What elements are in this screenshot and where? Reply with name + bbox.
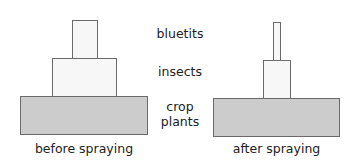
after-caption: after spraying: [213, 141, 340, 156]
label-bluetits: bluetits: [150, 26, 210, 41]
after-crop-plants-bar: [213, 98, 340, 137]
label-insects: insects: [150, 64, 210, 79]
before-bluetits-bar: [72, 20, 98, 59]
pyramids-of-numbers-diagram: before spraying bluetits insects crop pl…: [0, 0, 361, 166]
label-plants: plants: [150, 114, 210, 129]
before-caption: before spraying: [20, 141, 148, 156]
label-crop: crop: [150, 99, 210, 114]
before-crop-plants-bar: [20, 96, 148, 135]
after-bluetits-bar: [273, 22, 281, 61]
before-insects-bar: [52, 58, 117, 97]
after-insects-bar: [263, 60, 291, 99]
